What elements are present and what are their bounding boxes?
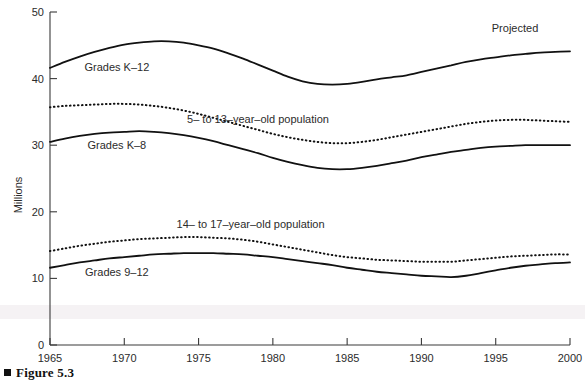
scan-artifact-band [0, 305, 585, 319]
y-tick-label: 10 [32, 272, 44, 284]
series-label-4: 14– to 17–year–old population [177, 218, 325, 230]
series-label-2: 5– to 13–year–old population [187, 113, 329, 125]
figure-container: 01020304050 1965197019751980198519901995… [0, 0, 585, 382]
series-label-5: Grades 9–12 [85, 266, 149, 278]
caption-square-icon [4, 369, 11, 376]
series-lines [50, 41, 570, 277]
y-tick-label: 0 [38, 339, 44, 351]
projected-label: Projected [492, 22, 538, 34]
x-tick-label: 1970 [112, 352, 136, 364]
y-axis: 01020304050 [32, 6, 57, 351]
x-tick-label: 1975 [186, 352, 210, 364]
line-chart: 01020304050 1965197019751980198519901995… [0, 0, 585, 382]
y-tick-label: 20 [32, 206, 44, 218]
x-axis: 19651970197519801985199019952000 [38, 338, 582, 364]
x-tick-label: 1995 [483, 352, 507, 364]
figure-caption-text: Figure 5.3 [16, 365, 74, 380]
figure-caption: Figure 5.3 [4, 365, 74, 381]
series-line-4 [50, 237, 570, 262]
x-tick-label: 2000 [558, 352, 582, 364]
y-axis-title: Millions [12, 176, 24, 213]
x-tick-label: 1990 [409, 352, 433, 364]
y-tick-label: 50 [32, 6, 44, 18]
series-label-3: Grades K–8 [88, 139, 147, 151]
x-tick-label: 1980 [261, 352, 285, 364]
x-tick-label: 1965 [38, 352, 62, 364]
y-tick-label: 30 [32, 139, 44, 151]
y-tick-label: 40 [32, 73, 44, 85]
series-label-1: Grades K–12 [84, 61, 149, 73]
x-tick-label: 1985 [335, 352, 359, 364]
